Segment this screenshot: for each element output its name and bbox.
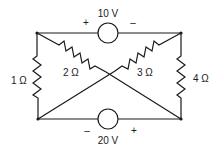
circuit-svg: 10 V + – 20 V – + 1 Ω 2 Ω 3 Ω 4 Ω	[0, 0, 217, 152]
top-branch	[37, 23, 181, 43]
minus-sign-20v: –	[84, 125, 90, 136]
bottom-branch	[38, 109, 181, 129]
label-4-ohm: 4 Ω	[193, 73, 209, 84]
circuit-diagram: 10 V + – 20 V – + 1 Ω 2 Ω 3 Ω 4 Ω	[0, 0, 217, 152]
label-10v: 10 V	[98, 8, 119, 19]
node-bottom-right	[179, 117, 182, 120]
minus-sign-10v: –	[130, 17, 136, 28]
node-top-right	[179, 31, 182, 34]
plus-sign-20v: +	[131, 125, 137, 136]
label-3-ohm: 3 Ω	[137, 67, 153, 78]
label-2-ohm: 2 Ω	[63, 67, 79, 78]
node-bottom-left	[36, 117, 39, 120]
node-top-left	[35, 31, 38, 34]
label-20v: 20 V	[98, 135, 119, 146]
plus-sign-10v: +	[83, 17, 89, 28]
voltage-source-10v	[98, 23, 118, 43]
resistor-1-ohm	[33, 33, 41, 119]
resistor-4-ohm	[177, 33, 185, 119]
label-1-ohm: 1 Ω	[11, 75, 27, 86]
voltage-source-20v	[98, 109, 118, 129]
